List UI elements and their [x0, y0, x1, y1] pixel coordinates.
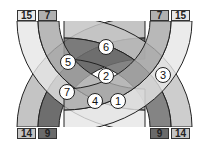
- marker-7: 7: [59, 84, 75, 100]
- label-bottom-right-outer: 14: [171, 128, 190, 139]
- marker-1: 1: [110, 93, 126, 109]
- label-bottom-left-inner: 9: [38, 128, 57, 139]
- label-bottom-right-inner: 9: [150, 128, 169, 139]
- marker-2: 2: [98, 68, 114, 84]
- band-crossing-diagram: 15 7 7 15 14 9 9 14 6 5 2 3 7 4 1: [0, 0, 209, 152]
- marker-3: 3: [155, 67, 171, 83]
- label-top-left-outer: 15: [17, 10, 36, 21]
- label-top-right-outer: 15: [171, 10, 190, 21]
- marker-4: 4: [87, 93, 103, 109]
- marker-6: 6: [98, 39, 114, 55]
- label-top-right-inner: 7: [150, 10, 169, 21]
- marker-5: 5: [60, 54, 76, 70]
- label-top-left-inner: 7: [38, 10, 57, 21]
- label-bottom-left-outer: 14: [17, 128, 36, 139]
